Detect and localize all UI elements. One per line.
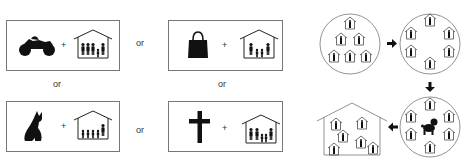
handbag-icon <box>187 31 209 59</box>
option-box-handbag: + <box>168 20 283 71</box>
plus-sign: + <box>222 40 227 50</box>
cross-icon <box>189 111 211 143</box>
or-label: or <box>136 125 144 135</box>
arrow-right-icon <box>387 39 397 48</box>
plus-sign: + <box>61 40 66 50</box>
stage-cluster-circle <box>320 14 380 74</box>
option-box-cross: + <box>168 101 283 152</box>
arrow-left-icon <box>388 123 398 132</box>
stage-ring-circle <box>400 14 460 74</box>
or-label: or <box>218 79 226 89</box>
family-house-icon <box>239 29 279 59</box>
stage-dog-circle <box>400 97 460 157</box>
or-label: or <box>53 79 61 89</box>
option-box-dog: + <box>6 101 120 152</box>
arrow-down-icon <box>425 82 435 92</box>
family-house-icon <box>73 29 113 59</box>
option-box-motorcycle: + <box>6 20 120 71</box>
family-house-icon <box>241 114 281 144</box>
or-label: or <box>136 38 144 48</box>
plus-sign: + <box>61 121 66 131</box>
dog-icon <box>23 110 45 142</box>
motorcycle-icon <box>19 35 55 57</box>
plus-sign: + <box>222 123 227 133</box>
family-house-icon <box>73 110 113 140</box>
process-diagram <box>310 0 470 165</box>
stage-big-shared-house <box>317 103 387 155</box>
